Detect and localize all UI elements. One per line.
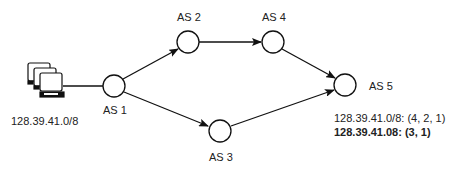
edge-as1-as2 <box>123 49 178 79</box>
node-as4 <box>262 31 284 53</box>
node-label-as1: AS 1 <box>103 104 127 116</box>
node-label-as3: AS 3 <box>209 151 233 163</box>
edge-as3-as5 <box>231 90 334 126</box>
node-label-as2: AS 2 <box>177 11 201 23</box>
edge-as1-as3 <box>124 92 208 126</box>
host-prefix-label: 128.39.41.0/8 <box>11 115 78 127</box>
node-label-as4: AS 4 <box>262 11 286 23</box>
node-as2 <box>177 31 199 53</box>
node-as3 <box>209 120 231 142</box>
node-label-as5: AS 5 <box>369 80 393 92</box>
route-entry-1: 128.39.41.0/8: (4, 2, 1) <box>334 112 445 124</box>
node-as1 <box>103 75 125 97</box>
route-entry-2: 128.39.41.08: (3, 1) <box>334 126 431 138</box>
computer-cluster-icon <box>28 63 64 97</box>
edge-as4-as5 <box>282 49 335 78</box>
node-as5 <box>334 74 356 96</box>
